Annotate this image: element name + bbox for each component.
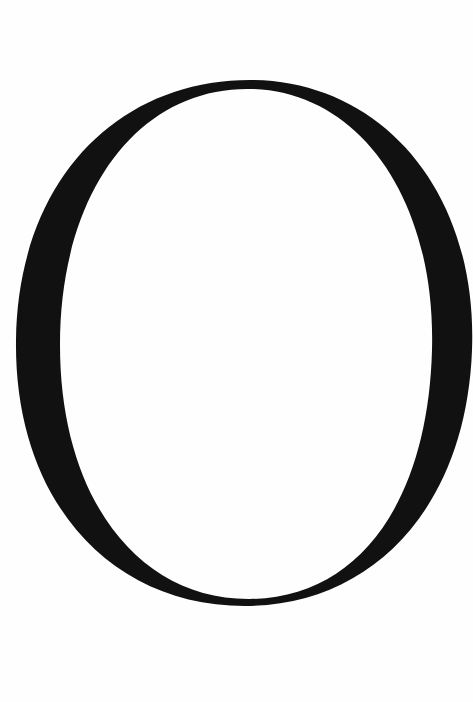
letter-canvas: O [0, 0, 473, 702]
serif-letter-o-glyph [0, 0, 473, 702]
